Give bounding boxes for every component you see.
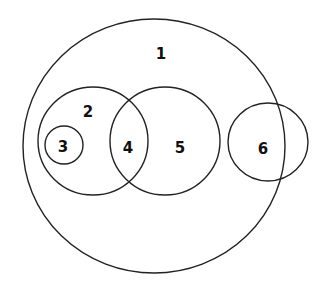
label-2: 2 [83,103,93,121]
label-4: 4 [123,139,133,157]
labels: 1 2 3 4 5 6 [58,45,268,158]
venn-diagram: 1 2 3 4 5 6 [0,0,322,287]
label-6: 6 [258,140,268,158]
label-5: 5 [175,139,185,157]
label-3: 3 [58,138,68,156]
label-1: 1 [156,45,166,63]
